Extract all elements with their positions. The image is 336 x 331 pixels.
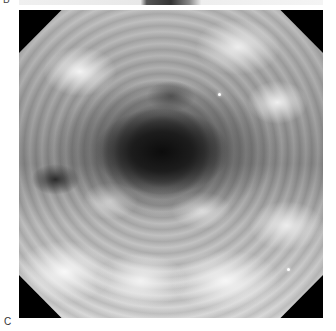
light-reflection [218,93,221,96]
endoscopy-image [19,10,323,318]
endoscopic-view [19,10,323,318]
previous-panel-label: B [3,0,10,5]
light-reflection [287,268,290,271]
previous-panel-image-edge [19,0,323,5]
panel-label: C [4,316,11,327]
